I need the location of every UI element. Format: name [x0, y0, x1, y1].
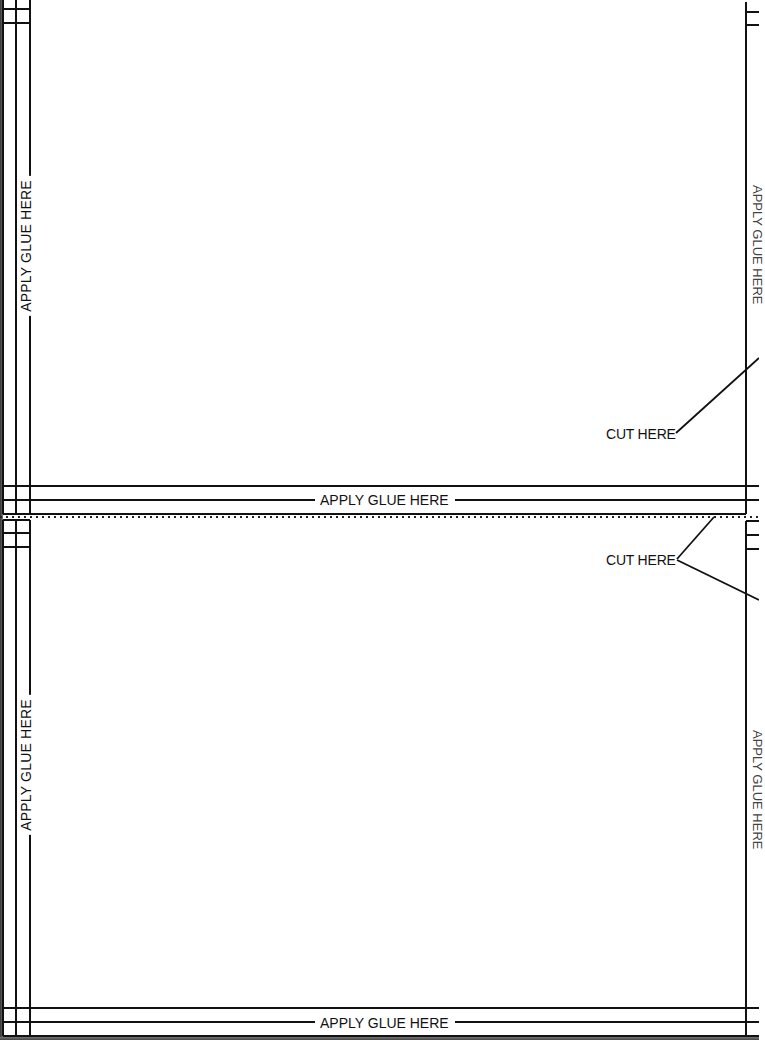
- lower-left-glue-label: APPLY GLUE HERE: [19, 695, 33, 835]
- lower-cut-label: CUT HERE: [606, 553, 676, 567]
- lower-bottom-glue-label: APPLY GLUE HERE: [315, 1016, 454, 1030]
- lower-cut-leader-up: [677, 517, 714, 559]
- upper-cut-label: CUT HERE: [606, 427, 676, 441]
- upper-left-glue-label: APPLY GLUE HERE: [19, 176, 33, 316]
- lower-right-glue-label-partial: APPLY GLUE HERE: [751, 730, 764, 849]
- upper-bottom-glue-label: APPLY GLUE HERE: [315, 493, 454, 507]
- upper-right-glue-label-partial: APPLY GLUE HERE: [751, 185, 764, 304]
